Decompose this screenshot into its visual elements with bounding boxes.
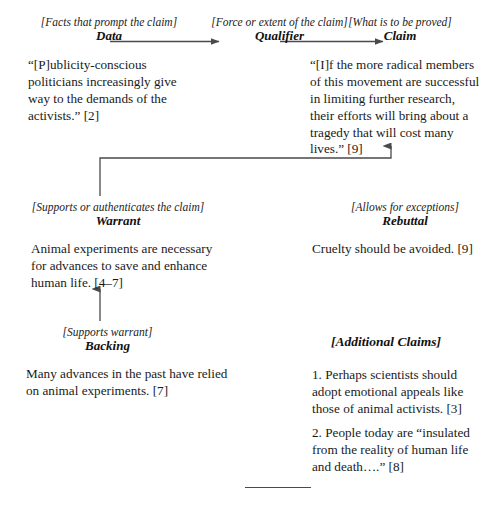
additional-claim-item-1: 1. Perhaps scientists should adopt emoti… (312, 367, 488, 418)
additional-claim-item-2: 2. People today are “insulated from the … (312, 425, 488, 476)
rebuttal-body-text: Cruelty should be avoided. [9] (312, 241, 491, 258)
claim-role-label: Claim (320, 29, 480, 44)
warrant-role-label: Warrant (14, 214, 222, 229)
claim-body-text: “[I]f the more radical members of this m… (310, 57, 480, 158)
node-backing: [Supports warrant] Backing (40, 326, 175, 354)
node-data: [Facts that prompt the claim] Data (24, 16, 194, 44)
bottom-divider (245, 487, 311, 488)
rebuttal-role-label: Rebuttal (330, 214, 480, 229)
node-rebuttal: [Allows for exceptions] Rebuttal (330, 201, 480, 229)
toulmin-argument-diagram: [Facts that prompt the claim] Data “[P]u… (0, 0, 491, 507)
backing-role-label: Backing (40, 339, 175, 354)
node-claim: [What is to be proved] Claim (320, 16, 480, 44)
data-role-label: Data (24, 29, 194, 44)
data-body-text: “[P]ublicity-conscious politicians incre… (28, 57, 196, 125)
backing-body-text: Many advances in the past have relied on… (26, 366, 241, 400)
node-warrant: [Supports or authenticates the claim] Wa… (14, 201, 222, 229)
additional-claims-heading: [Additional Claims] (331, 334, 441, 350)
warrant-body-text: Animal experiments are necessary for adv… (31, 241, 223, 292)
